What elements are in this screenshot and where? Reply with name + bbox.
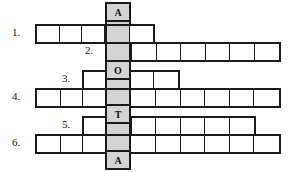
row-number-4: 4.: [12, 90, 20, 102]
answer-cell[interactable]: [181, 44, 205, 60]
answer-cell[interactable]: [205, 118, 229, 134]
answer-cell[interactable]: [131, 72, 154, 88]
answer-cell[interactable]: [37, 26, 60, 42]
answer-cell[interactable]: [37, 90, 61, 106]
answer-cell[interactable]: [130, 26, 153, 42]
keyword-letter-cell-1[interactable]: A: [105, 2, 131, 22]
row-number-1: 1.: [12, 26, 20, 38]
crossword-puzzle: 1. 2. 3. 4.: [0, 0, 296, 172]
answer-cell[interactable]: [60, 26, 82, 42]
answer-cell[interactable]: [206, 44, 230, 60]
answer-cell[interactable]: [230, 136, 255, 152]
answer-cell[interactable]: [156, 90, 181, 106]
keyword-letter-cell-3[interactable]: T: [105, 104, 131, 124]
answer-cell-keyword[interactable]: [105, 26, 130, 42]
answer-cell[interactable]: [230, 118, 254, 134]
answer-cell[interactable]: [254, 136, 279, 152]
answer-row-2[interactable]: [105, 42, 281, 62]
answer-cell[interactable]: [230, 90, 255, 106]
answer-cell[interactable]: [84, 118, 106, 134]
answer-cell[interactable]: [181, 136, 206, 152]
answer-cell[interactable]: [61, 90, 84, 106]
answer-row-1[interactable]: [35, 24, 155, 44]
answer-cell[interactable]: [84, 72, 106, 88]
answer-cell[interactable]: [82, 26, 104, 42]
answer-cell[interactable]: [156, 136, 181, 152]
answer-cell[interactable]: [255, 44, 279, 60]
answer-cell[interactable]: [132, 118, 156, 134]
answer-cell[interactable]: [132, 44, 156, 60]
answer-row-3[interactable]: [82, 70, 180, 90]
keyword-letter-cell-2[interactable]: O: [105, 60, 131, 80]
answer-cell[interactable]: [156, 118, 180, 134]
answer-cell[interactable]: [154, 72, 178, 88]
keyword-letter-cell-4[interactable]: A: [105, 150, 131, 170]
answer-cell[interactable]: [230, 44, 254, 60]
answer-cell[interactable]: [131, 90, 156, 106]
row-number-5: 5.: [62, 118, 70, 130]
answer-cell[interactable]: [157, 44, 181, 60]
answer-cell[interactable]: [205, 90, 230, 106]
answer-cell[interactable]: [131, 136, 156, 152]
answer-cell-keyword[interactable]: [107, 44, 132, 60]
answer-cell[interactable]: [83, 90, 106, 106]
answer-cell[interactable]: [205, 136, 230, 152]
answer-row-6[interactable]: [35, 134, 281, 154]
row-number-3: 3.: [62, 72, 70, 84]
answer-cell[interactable]: [254, 90, 279, 106]
answer-cell[interactable]: [83, 136, 106, 152]
row-number-6: 6.: [12, 136, 20, 148]
answer-row-4[interactable]: [35, 88, 281, 108]
row-number-2: 2.: [85, 44, 93, 56]
answer-cell[interactable]: [181, 118, 205, 134]
answer-cell[interactable]: [61, 136, 84, 152]
answer-cell[interactable]: [37, 136, 61, 152]
answer-cell[interactable]: [181, 90, 206, 106]
